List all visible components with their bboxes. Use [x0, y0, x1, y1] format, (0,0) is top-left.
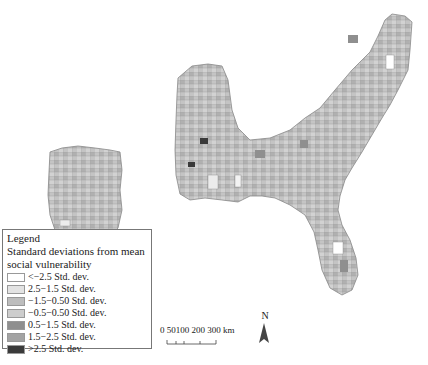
north-arrow: N [255, 310, 275, 321]
region-west [48, 146, 122, 242]
legend-item: 1.5−2.5 Std. dev. [7, 331, 147, 343]
legend-label: <−2.5 Std. dev. [28, 271, 89, 283]
legend-item: >2.5 Std. dev. [7, 343, 147, 355]
scale-bar-label: 0 50100 200 300 km [160, 325, 235, 335]
legend-label: 2.5−1.5 Std. dev. [28, 283, 96, 295]
scale-bar: 0 50100 200 300 km [160, 325, 235, 335]
north-arrow-icon [259, 323, 269, 343]
legend-swatch [7, 333, 25, 342]
legend-item: 2.5−1.5 Std. dev. [7, 283, 147, 295]
legend-item: −0.5−0.50 Std. dev. [7, 307, 147, 319]
region-main [175, 14, 412, 295]
legend-swatch [7, 285, 25, 294]
legend-subtitle: Standard deviations from mean [7, 245, 147, 258]
legend-swatch [7, 309, 25, 318]
scale-bar-line [167, 340, 216, 344]
map-legend: Legend Standard deviations from mean soc… [2, 229, 152, 349]
legend-swatch [7, 345, 25, 354]
legend-label: −1.5−0.50 Std. dev. [28, 295, 106, 307]
legend-label: −0.5−0.50 Std. dev. [28, 307, 106, 319]
legend-label: >2.5 Std. dev. [28, 343, 83, 355]
legend-label: 0.5−1.5 Std. dev. [28, 319, 96, 331]
legend-title: Legend [7, 232, 147, 245]
legend-item: 0.5−1.5 Std. dev. [7, 319, 147, 331]
north-label: N [261, 310, 268, 321]
legend-swatch [7, 297, 25, 306]
legend-subtitle-2: social vulnerability [7, 258, 147, 271]
legend-item: −1.5−0.50 Std. dev. [7, 295, 147, 307]
legend-item: <−2.5 Std. dev. [7, 271, 147, 283]
legend-swatch [7, 273, 25, 282]
legend-label: 1.5−2.5 Std. dev. [28, 331, 96, 343]
legend-swatch [7, 321, 25, 330]
